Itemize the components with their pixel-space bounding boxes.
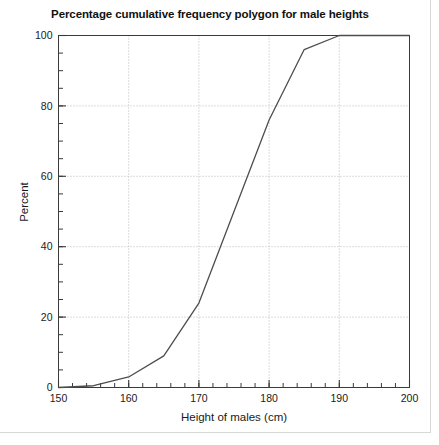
- y-tick-label: 100: [35, 29, 53, 41]
- data-series-line: [59, 36, 410, 388]
- y-tick-label: 20: [41, 311, 53, 323]
- tick-labels-group: 150160170180190200020406080100: [35, 29, 418, 403]
- x-tick-label: 160: [120, 392, 138, 404]
- x-tick-label: 200: [401, 392, 419, 404]
- y-tick-label: 40: [41, 240, 53, 252]
- x-tick-label: 190: [331, 392, 349, 404]
- y-tick-label: 0: [47, 381, 53, 393]
- x-axis-label: Height of males (cm): [118, 411, 350, 423]
- y-tick-label: 80: [41, 100, 53, 112]
- x-tick-label: 150: [50, 392, 68, 404]
- y-tick-label: 60: [41, 170, 53, 182]
- x-tick-label: 170: [190, 392, 208, 404]
- plot-area: 150160170180190200020406080100: [0, 0, 439, 445]
- y-axis-label: Percent: [18, 162, 30, 242]
- x-tick-label: 180: [260, 392, 278, 404]
- chart-figure: Percentage cumulative frequency polygon …: [0, 0, 439, 445]
